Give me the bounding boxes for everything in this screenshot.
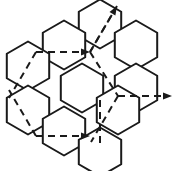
vector-a3-arrowhead-icon [163,93,172,100]
hexagonal-lattice-figure [0,0,178,171]
lattice-diagram-canvas [0,0,178,171]
hexagon-cell-layer [7,0,157,171]
